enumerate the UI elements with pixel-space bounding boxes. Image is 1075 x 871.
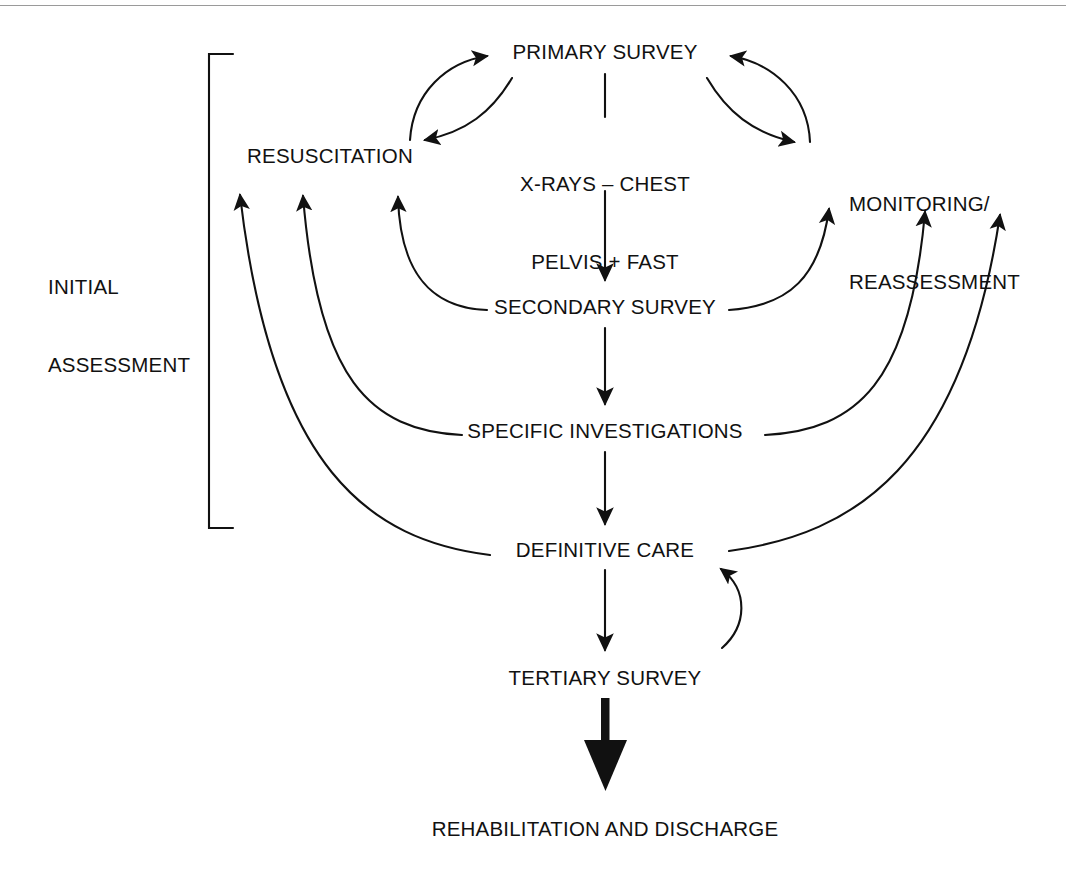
monitoring-line-2: REASSESSMENT bbox=[849, 269, 1020, 295]
node-definitive-care: DEFINITIVE CARE bbox=[516, 537, 694, 563]
edge-monitoring-to-primary-survey bbox=[731, 56, 810, 142]
node-resuscitation: RESUSCITATION bbox=[247, 143, 413, 169]
monitoring-line-1: MONITORING/ bbox=[849, 191, 1020, 217]
node-rehabilitation-and-discharge: REHABILITATION AND DISCHARGE bbox=[432, 816, 779, 842]
xrays-line-1: X-RAYS – CHEST bbox=[520, 171, 690, 197]
node-initial-assessment: INITIAL ASSESSMENT bbox=[48, 222, 190, 430]
edge-specific-investigations-to-resuscitation bbox=[303, 196, 462, 435]
edge-tertiary-survey-to-rehabilitation bbox=[584, 698, 627, 791]
node-specific-investigations: SPECIFIC INVESTIGATIONS bbox=[467, 418, 742, 444]
node-secondary-survey: SECONDARY SURVEY bbox=[494, 294, 716, 320]
edge-secondary-survey-to-resuscitation bbox=[398, 197, 487, 310]
edge-secondary-survey-to-monitoring bbox=[729, 209, 829, 310]
node-primary-survey: PRIMARY SURVEY bbox=[512, 39, 697, 65]
edge-primary-survey-to-resuscitation bbox=[425, 78, 512, 140]
edge-primary-survey-to-monitoring bbox=[707, 78, 794, 142]
flowchart-canvas: INITIAL ASSESSMENT RESUSCITATION PRIMARY… bbox=[0, 0, 1075, 871]
node-monitoring-reassessment: MONITORING/ REASSESSMENT bbox=[849, 139, 1020, 347]
initial-assessment-line-2: ASSESSMENT bbox=[48, 352, 190, 378]
xrays-line-2: PELVIS + FAST bbox=[520, 249, 690, 275]
initial-assessment-bracket bbox=[209, 54, 233, 528]
edge-tertiary-survey-to-definitive-care bbox=[721, 569, 741, 648]
node-tertiary-survey: TERTIARY SURVEY bbox=[509, 665, 702, 691]
initial-assessment-line-1: INITIAL bbox=[48, 274, 190, 300]
edge-definitive-care-to-resuscitation bbox=[240, 195, 490, 555]
edge-resuscitation-to-primary-survey bbox=[410, 56, 487, 140]
